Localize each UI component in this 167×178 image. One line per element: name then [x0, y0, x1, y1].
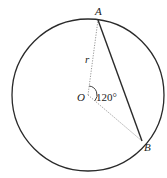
radius-oa — [88, 20, 98, 95]
angle-label: 120° — [96, 91, 117, 103]
center-label: O — [77, 91, 85, 103]
point-b-label: B — [144, 141, 151, 153]
point-a-label: A — [94, 5, 102, 17]
radius-label: r — [85, 53, 90, 65]
circle-diagram: A B O r 120° — [0, 0, 167, 178]
